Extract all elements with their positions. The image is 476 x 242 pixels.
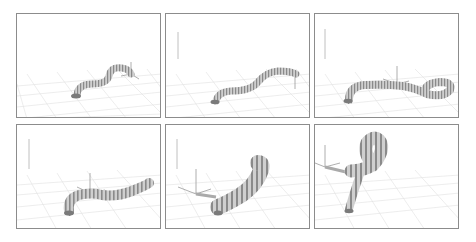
scene-4 <box>17 125 161 229</box>
robot-tip <box>196 194 216 197</box>
robot-body <box>351 138 382 171</box>
sim-frame-1 <box>16 13 161 118</box>
axes-icon <box>315 145 340 167</box>
robot-body <box>218 163 262 207</box>
scene-5 <box>166 125 310 229</box>
sim-frame-5 <box>165 124 310 229</box>
robot-body <box>216 71 296 101</box>
scene-6 <box>315 125 459 229</box>
scene-2 <box>166 14 310 118</box>
scene-1 <box>17 14 161 118</box>
sim-frame-2 <box>165 13 310 118</box>
robot-body <box>77 68 131 94</box>
sim-frame-3 <box>314 13 459 118</box>
scene-3 <box>315 14 459 118</box>
sim-frame-4 <box>16 124 161 229</box>
ground-grid <box>315 170 459 229</box>
axes-icon <box>178 169 211 194</box>
ground-grid <box>17 170 161 229</box>
ground-grid <box>17 69 161 118</box>
sim-frame-6 <box>314 124 459 229</box>
